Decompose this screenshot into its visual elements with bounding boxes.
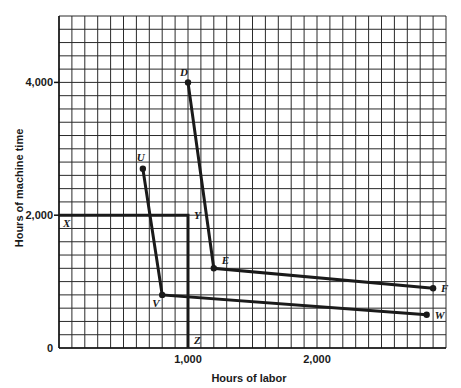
- point-label-v: V: [152, 297, 161, 309]
- y-tick-label: 2,000: [25, 209, 53, 221]
- point-marker-e: [211, 265, 217, 271]
- y-axis-title: Hours of machine time: [13, 129, 25, 248]
- chart-grid: [59, 16, 446, 348]
- point-label-z: Z: [193, 334, 201, 346]
- point-label-w: W: [435, 309, 446, 321]
- point-label-x: X: [62, 217, 71, 229]
- point-label-f: F: [440, 282, 449, 294]
- chart-labels: XYZUVWDEF: [62, 66, 449, 346]
- chart: 02,0004,0001,0002,000 XYZUVWDEF Hours of…: [0, 0, 461, 388]
- x-tick-label: 1,000: [174, 353, 202, 365]
- point-marker-v: [159, 292, 165, 298]
- point-marker-w: [423, 312, 429, 318]
- x-tick-label: 2,000: [303, 353, 331, 365]
- y-tick-label: 0: [47, 342, 53, 354]
- point-label-d: D: [179, 66, 188, 78]
- point-label-e: E: [221, 254, 229, 266]
- point-label-u: U: [137, 151, 146, 163]
- x-axis-title: Hours of labor: [211, 372, 287, 384]
- y-tick-label: 4,000: [25, 76, 53, 88]
- point-marker-d: [185, 79, 191, 85]
- point-marker-u: [140, 166, 146, 172]
- point-marker-f: [430, 285, 436, 291]
